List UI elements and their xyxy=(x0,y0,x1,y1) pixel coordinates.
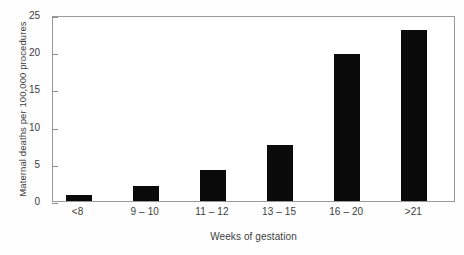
y-tick-mark xyxy=(52,17,58,18)
bar xyxy=(334,54,360,201)
y-tick-mark xyxy=(52,54,58,55)
y-tick-label: 20 xyxy=(29,48,40,58)
x-tick-label: <8 xyxy=(72,206,84,217)
x-axis-title: Weeks of gestation xyxy=(52,231,455,242)
bar xyxy=(267,145,293,201)
y-tick-label: 5 xyxy=(34,160,40,170)
x-tick-label: >21 xyxy=(405,206,422,217)
bar xyxy=(401,30,427,201)
x-axis-category-labels: <89 – 1011 – 1213 – 1516 – 20>21 xyxy=(52,206,455,222)
y-tick-mark xyxy=(52,166,58,167)
y-tick-label: 15 xyxy=(29,85,40,95)
bar xyxy=(66,195,92,201)
x-tick-label: 11 – 12 xyxy=(195,206,228,217)
bar xyxy=(133,186,159,201)
x-tick-label: 9 – 10 xyxy=(131,206,159,217)
y-tick-label: 0 xyxy=(34,197,40,207)
chart-figure: Maternal deaths per 100,000 procedures 0… xyxy=(0,0,464,255)
y-tick-mark xyxy=(52,91,58,92)
y-tick-label: 10 xyxy=(29,123,40,133)
y-tick-mark xyxy=(52,129,58,130)
plot-area xyxy=(52,16,455,202)
y-axis-tick-labels: 0510152025 xyxy=(0,0,48,255)
y-tick-mark xyxy=(52,203,58,204)
bar xyxy=(200,170,226,201)
x-tick-label: 13 – 15 xyxy=(262,206,296,217)
x-tick-label: 16 – 20 xyxy=(329,206,363,217)
y-tick-label: 25 xyxy=(29,11,40,21)
